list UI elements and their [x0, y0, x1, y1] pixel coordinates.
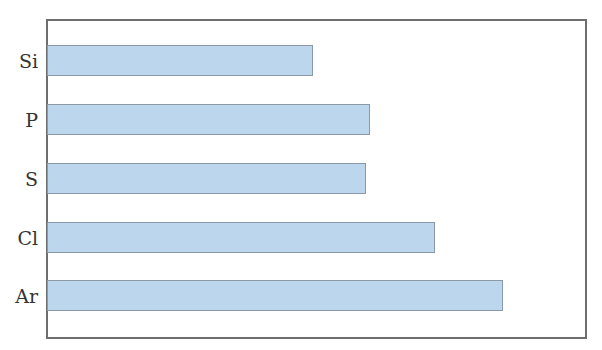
category-label-s: S: [0, 163, 38, 195]
bar-cl: [47, 222, 435, 253]
category-label-si: Si: [0, 45, 38, 77]
bar-s: [47, 163, 366, 194]
category-label-cl: Cl: [0, 222, 38, 254]
category-label-p: P: [0, 104, 38, 136]
category-label-ar: Ar: [0, 280, 38, 312]
bar-p: [47, 104, 370, 135]
bar-si: [47, 45, 313, 76]
bar-ar: [47, 280, 503, 311]
